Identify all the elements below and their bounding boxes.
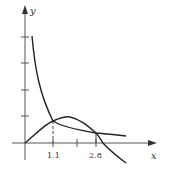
x-axis-label: x bbox=[151, 150, 157, 161]
y-axis-arrow-icon bbox=[22, 5, 28, 14]
x-axis-arrow-icon bbox=[148, 140, 157, 146]
y-axis-label: y bbox=[29, 5, 36, 16]
function-graph: y x 1.1 2.8 bbox=[0, 0, 170, 171]
axes bbox=[12, 10, 150, 160]
x-tick-label-2: 2.8 bbox=[89, 151, 102, 160]
x-tick-label-1: 1.1 bbox=[47, 151, 60, 160]
humped-curve bbox=[25, 117, 126, 163]
